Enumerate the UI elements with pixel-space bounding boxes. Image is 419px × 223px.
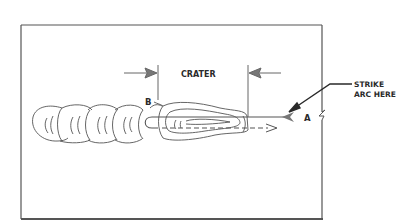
break-mark	[319, 110, 325, 120]
restart-arrow-icon	[282, 112, 294, 122]
strike-label-line2: ARC HERE	[354, 90, 396, 100]
electrode-travel-path	[145, 117, 290, 128]
crater-outline	[150, 102, 248, 140]
weld-restart-diagram	[0, 0, 419, 223]
base-plate	[21, 25, 323, 219]
weld-bead-ripples	[33, 105, 143, 143]
point-a-label: A	[304, 113, 311, 123]
point-b-leader	[154, 102, 163, 106]
point-b-label: B	[145, 97, 151, 107]
strike-arc-leader	[289, 84, 352, 112]
strike-label-line1: STRIKE	[354, 80, 384, 90]
crater-label: CRATER	[181, 70, 216, 80]
